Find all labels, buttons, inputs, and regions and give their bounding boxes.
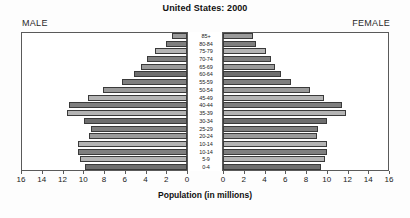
female-bar (223, 87, 389, 93)
female-bar-fill (223, 141, 327, 147)
population-pyramid-chart: United States: 2000 MALE FEMALE 85+80-84… (0, 0, 410, 218)
male-bar (21, 156, 187, 162)
male-bar (21, 79, 187, 85)
male-bar-fill (78, 141, 187, 147)
age-group-label: 25-29 (188, 126, 224, 132)
male-bar-fill (103, 87, 187, 93)
axis-tick (146, 171, 147, 174)
axis-tick (327, 171, 328, 174)
female-bar-fill (223, 110, 346, 116)
axis-tick (285, 171, 286, 174)
male-bar (21, 118, 187, 124)
male-x-axis: 1614121086420 (21, 171, 187, 189)
axis-tick (244, 171, 245, 174)
male-bar (21, 126, 187, 132)
male-bar (21, 102, 187, 108)
age-group-label: 10-14 (188, 149, 224, 155)
axis-tick-label: 16 (385, 175, 394, 184)
male-bar-fill (122, 79, 187, 85)
age-group-label: 10-14 (188, 141, 224, 147)
axis-tick (389, 171, 390, 174)
x-axis-title: Population (in millions) (0, 190, 410, 200)
axis-tick-label: 8 (102, 175, 106, 184)
axis-tick-label: 2 (164, 175, 168, 184)
age-group-label: 35-39 (188, 110, 224, 116)
female-bar (223, 133, 389, 139)
male-bar-fill (78, 149, 187, 155)
axis-tick (21, 171, 22, 174)
axis-tick (42, 171, 43, 174)
male-bar-fill (141, 64, 187, 70)
male-bar-fill (147, 56, 187, 62)
male-bar-fill (88, 95, 187, 101)
age-group-label: 5-9 (188, 156, 224, 162)
age-group-label: 85+ (188, 33, 224, 39)
female-bar (223, 56, 389, 62)
female-bar (223, 164, 389, 170)
male-bar-fill (80, 156, 187, 162)
female-bar (223, 79, 389, 85)
age-group-label: 75-79 (188, 48, 224, 54)
male-bar (21, 48, 187, 54)
female-bar-fill (223, 133, 317, 139)
female-bar (223, 156, 389, 162)
age-group-axis: 85+80-8475-7970-7465-6960-6455-5950-5445… (187, 32, 223, 171)
age-group-label: 20-24 (188, 133, 224, 139)
female-bar-fill (223, 33, 253, 39)
female-bar-fill (223, 95, 324, 101)
axis-tick (83, 171, 84, 174)
male-bar (21, 164, 187, 170)
age-group-label: 65-69 (188, 64, 224, 70)
male-bar (21, 56, 187, 62)
axis-tick (306, 171, 307, 174)
male-bar-fill (67, 110, 187, 116)
axis-tick (265, 171, 266, 174)
male-bar-fill (85, 164, 187, 170)
male-bar-fill (166, 41, 187, 47)
male-bar (21, 87, 187, 93)
male-bar-fill (69, 102, 187, 108)
axis-tick (125, 171, 126, 174)
female-bar-fill (223, 64, 275, 70)
axis-tick-label: 2 (242, 175, 246, 184)
female-bar-fill (223, 48, 266, 54)
axis-tick-label: 4 (143, 175, 147, 184)
age-group-label: 40-44 (188, 102, 224, 108)
female-panel-label: FEMALE (352, 18, 390, 28)
age-group-label: 50-54 (188, 87, 224, 93)
axis-tick (368, 171, 369, 174)
male-panel-label: MALE (22, 18, 48, 28)
axis-tick-label: 12 (58, 175, 67, 184)
female-bar-fill (223, 156, 325, 162)
female-bar (223, 141, 389, 147)
male-bar (21, 141, 187, 147)
male-bar (21, 149, 187, 155)
female-bar (223, 33, 389, 39)
age-group-label: 70-74 (188, 56, 224, 62)
age-group-label: 0-4 (188, 164, 224, 170)
female-bar-fill (223, 41, 256, 47)
male-bar-fill (91, 126, 187, 132)
axis-tick (187, 171, 188, 174)
female-bar-fill (223, 118, 327, 124)
female-bar (223, 71, 389, 77)
male-bar-fill (84, 118, 187, 124)
axis-tick (348, 171, 349, 174)
female-bar (223, 110, 389, 116)
axis-tick-label: 10 (322, 175, 331, 184)
axis-tick-label: 10 (79, 175, 88, 184)
female-bar-fill (223, 56, 271, 62)
female-bar (223, 118, 389, 124)
male-bar-fill (134, 71, 187, 77)
age-group-label: 80-84 (188, 41, 224, 47)
male-bar-fill (172, 33, 187, 39)
age-group-label: 60-64 (188, 71, 224, 77)
female-bar-fill (223, 149, 327, 155)
axis-tick-label: 14 (364, 175, 373, 184)
female-bar-fill (223, 71, 281, 77)
axis-tick-label: 6 (123, 175, 127, 184)
male-bar (21, 133, 187, 139)
axis-tick (104, 171, 105, 174)
axis-tick-label: 14 (37, 175, 46, 184)
female-bar-fill (223, 164, 321, 170)
